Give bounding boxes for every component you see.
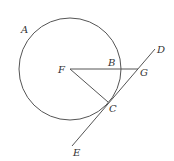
- label-d: D: [156, 44, 165, 55]
- label-a: A: [20, 24, 28, 35]
- label-e: E: [72, 147, 81, 158]
- label-f: F: [57, 64, 66, 75]
- label-b: B: [107, 57, 115, 68]
- label-g: G: [140, 67, 148, 78]
- label-c: C: [109, 103, 117, 114]
- geometry-diagram: A B C D E F G: [0, 0, 174, 161]
- segment-fc: [70, 69, 108, 102]
